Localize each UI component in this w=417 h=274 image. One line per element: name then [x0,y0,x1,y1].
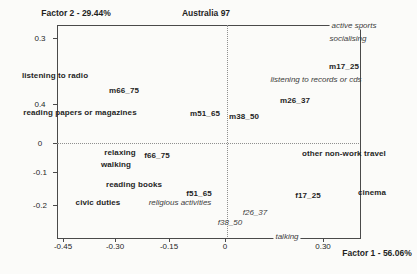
y-tick-mark [53,143,57,144]
point-label: f51_65 [186,189,212,198]
activity-label: reading papers or magazines [23,108,136,117]
activity-label: active sports [330,21,379,30]
y-tick-label: -0.2 [33,201,47,210]
y-tick-mark [53,172,57,173]
point-label: f17_25 [295,191,321,200]
point-label: m66_75 [109,86,139,95]
x-tick-label: -0.45 [54,242,72,251]
point-label: m38_50 [229,112,259,121]
activity-label: other non-work travel [302,149,386,158]
zero-line-vertical [227,25,228,237]
point-label: f26_37 [243,208,267,217]
y-tick-label: 0 [38,139,42,148]
zero-line-horizontal [57,143,359,144]
point-label: m17_25 [329,62,359,71]
point-label: f38_50 [218,218,242,227]
activity-label: relaxing [104,148,135,157]
x-tick-label: 0.30 [315,242,331,251]
y-tick-mark [53,104,57,105]
y-tick-mark [53,205,57,206]
y-axis-title: Factor 2 - 29.44% [41,8,110,18]
point-label: m26_37 [280,96,310,105]
x-tick-label: -0.30 [106,242,124,251]
plot-area-frame [57,25,361,239]
y-tick-label: -0.1 [33,168,47,177]
activity-label: listening to radio [22,71,88,80]
activity-label: walking [101,160,131,169]
x-axis-title: Factor 1 - 56.06% [342,248,411,258]
activity-label: socialising [330,34,367,43]
x-tick-label: -0.15 [160,242,178,251]
activity-label: listening to records or cds [270,75,361,84]
y-tick-mark [53,38,57,39]
factor-biplot: Factor 2 - 29.44% Australia 97 Factor 1 … [0,0,417,274]
point-label: m51_65 [190,109,220,118]
x-tick-label: 0 [223,242,227,251]
point-label: f66_75 [144,151,170,160]
activity-label: reading books [106,180,162,189]
y-tick-label: 0.3 [34,34,45,43]
activity-label: civic duties [76,198,121,207]
activity-label: talking [273,232,300,241]
chart-title: Australia 97 [182,8,230,18]
activity-label: cinema [358,188,386,197]
activity-label: religious activities [149,198,212,207]
